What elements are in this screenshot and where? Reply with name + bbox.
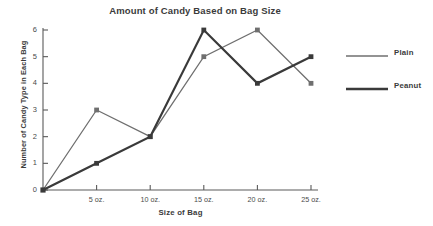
chart-canvas: Amount of Candy Based on Bag Size Number… — [0, 0, 433, 226]
legend-line-peanut — [346, 86, 388, 92]
series-line-peanut — [43, 30, 311, 190]
x-tick-label: 20 oz. — [237, 195, 277, 204]
y-tick-label: 3 — [23, 105, 37, 114]
x-tick-label: 15 oz. — [184, 195, 224, 204]
chart-legend: Plain Peanut — [346, 48, 432, 114]
y-tick-label: 0 — [23, 185, 37, 194]
axes — [43, 28, 318, 190]
legend-item-peanut[interactable]: Peanut — [346, 81, 432, 114]
data-point-peanut — [148, 134, 153, 139]
y-tick-label: 6 — [23, 25, 37, 34]
data-point-plain — [201, 54, 206, 59]
x-tick-label: 10 oz. — [130, 195, 170, 204]
x-tick-label: 5 oz. — [77, 195, 117, 204]
data-point-peanut — [201, 28, 206, 33]
y-tick-label: 1 — [23, 158, 37, 167]
legend-label-plain: Plain — [394, 48, 414, 57]
data-point-plain — [309, 81, 314, 86]
data-point-peanut — [309, 54, 314, 59]
y-tick-label: 5 — [23, 52, 37, 61]
series-line-plain — [43, 30, 311, 190]
y-axis-ticks — [43, 30, 48, 190]
data-point-plain — [255, 28, 260, 33]
data-point-peanut — [255, 81, 260, 86]
x-tick-label: 25 oz. — [291, 195, 331, 204]
y-tick-label: 4 — [23, 78, 37, 87]
data-series-layer — [40, 28, 313, 193]
data-point-plain — [94, 108, 99, 113]
x-axis-ticks — [97, 185, 311, 190]
legend-label-peanut: Peanut — [394, 81, 421, 90]
data-point-origin — [40, 187, 45, 192]
x-axis-label: Size of Bag — [43, 208, 318, 217]
data-point-peanut — [94, 161, 99, 166]
legend-item-plain[interactable]: Plain — [346, 48, 432, 81]
legend-line-plain — [346, 53, 388, 59]
y-tick-label: 2 — [23, 132, 37, 141]
